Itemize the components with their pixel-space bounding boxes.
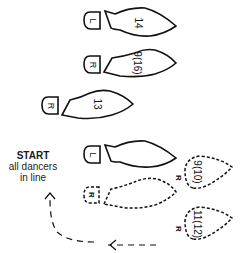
step-number: 14 xyxy=(133,17,144,29)
heel-foot-label: R xyxy=(46,103,56,110)
footprint-right-13: R 13 xyxy=(42,90,133,118)
arrow-head-left xyxy=(110,240,116,250)
footprint-ball-right-9-10: R 9(10) xyxy=(174,156,232,188)
step-number: 13 xyxy=(92,98,103,110)
sole-shape xyxy=(105,141,176,167)
heel-foot-label: R xyxy=(87,192,96,198)
start-line-1: all dancers xyxy=(4,161,62,172)
start-label: START all dancers in line xyxy=(4,150,62,183)
foot-label: R xyxy=(174,226,183,232)
start-line-2: in line xyxy=(4,172,62,183)
footprint-ball-right-11-12: R 11(12) xyxy=(174,207,232,239)
arrow-head-up xyxy=(45,193,55,199)
step-number: 11(12) xyxy=(192,210,203,238)
step-number: 9(10) xyxy=(192,160,203,183)
start-title: START xyxy=(4,150,62,161)
footprint-left-start: L xyxy=(84,141,176,167)
heel-foot-label: L xyxy=(88,18,98,23)
sole-shape xyxy=(104,178,176,208)
heel-foot-label: L xyxy=(88,152,98,157)
dance-diagram: L 14 R 9(16) R 13 L R xyxy=(0,0,242,253)
return-arrow xyxy=(45,193,156,250)
footprint-right-start-dashed: R xyxy=(84,178,176,208)
footprint-right-9-16: R 9(16) xyxy=(84,49,176,76)
footprint-left-14: L 14 xyxy=(84,8,176,36)
step-number: 9(16) xyxy=(132,51,143,74)
ball-shape xyxy=(185,156,232,188)
arrow-dashed-path xyxy=(50,200,156,245)
ball-shape xyxy=(185,207,232,239)
foot-label: R xyxy=(174,175,183,181)
heel-foot-label: R xyxy=(88,62,98,69)
